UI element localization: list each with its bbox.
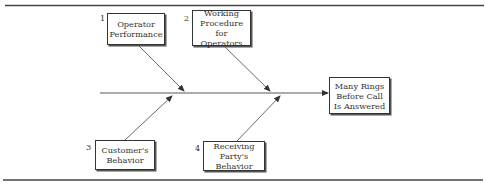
cause-3-label: Customer's Behavior <box>98 145 152 165</box>
cause-2-number: 2 <box>184 14 189 23</box>
cause-3-arrow <box>125 96 172 140</box>
cause-3-number: 3 <box>86 143 91 152</box>
cause-1-number: 1 <box>100 14 105 23</box>
cause-2-box: Working Procedure for Operators <box>192 10 251 46</box>
cause-4-number: 4 <box>195 144 200 153</box>
cause-2-label: Working Procedure for Operators <box>195 8 248 48</box>
cause-1-label: Operator Performance <box>109 19 162 39</box>
cause-1-box: Operator Performance <box>107 13 165 45</box>
cause-4-arrow <box>237 96 280 141</box>
cause-4-box: Receiving Party's Behavior <box>203 141 265 171</box>
cause-1-arrow <box>139 46 184 91</box>
effect-label: Many Rings Before Call Is Answered <box>332 81 387 111</box>
cause-4-label: Receiving Party's Behavior <box>206 141 262 171</box>
cause-2-arrow <box>225 47 270 91</box>
effect-box: Many Rings Before Call Is Answered <box>329 77 390 114</box>
cause-3-box: Customer's Behavior <box>95 140 155 170</box>
